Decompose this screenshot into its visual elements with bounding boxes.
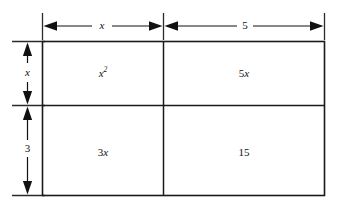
area-model-figure: x 5 x 3 <box>0 0 338 207</box>
cell-top-right-label: 5x <box>239 67 250 79</box>
dimension-arrow-height-3: 3 <box>23 107 32 195</box>
cell-top-left-exponent: 2 <box>104 65 108 74</box>
arrowhead-bottom <box>23 91 32 105</box>
arrowhead-left <box>44 21 58 31</box>
arrowhead-top <box>23 107 32 121</box>
diagram-canvas: x 5 x 3 <box>0 0 338 207</box>
dimension-arrow-width-5: 5 <box>165 19 324 31</box>
cell-bottom-left-label: 3x <box>98 146 109 158</box>
dimension-label-height-x: x <box>24 66 30 78</box>
cell-top-left: x2 <box>98 65 108 79</box>
arrowhead-left <box>165 21 179 31</box>
cell-top-right: 5x <box>239 67 250 79</box>
cell-bottom-left-variable: x <box>102 146 108 158</box>
arrowhead-bottom <box>23 181 32 195</box>
dimension-arrow-height-x: x <box>23 43 32 105</box>
cell-bottom-right: 15 <box>239 146 251 158</box>
dimension-label-width-5: 5 <box>242 19 248 31</box>
outer-rectangle <box>43 42 325 196</box>
arrowhead-right <box>310 21 324 31</box>
arrowhead-right <box>149 21 163 31</box>
dimension-arrow-width-x: x <box>44 19 163 31</box>
cell-top-left-label: x2 <box>98 65 108 79</box>
arrowhead-top <box>23 43 32 57</box>
dimension-label-height-3: 3 <box>25 142 31 154</box>
dimension-label-width-x: x <box>99 19 105 31</box>
cell-bottom-left: 3x <box>98 146 109 158</box>
cell-bottom-right-label: 15 <box>239 146 251 158</box>
cell-top-right-variable: x <box>243 67 249 79</box>
